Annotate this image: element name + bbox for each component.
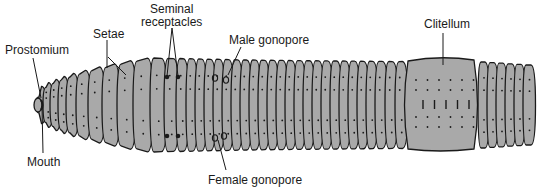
label-setae: Setae: [93, 27, 125, 41]
seminal-receptacle: [165, 134, 170, 139]
tail-segment: [523, 65, 536, 145]
earthworm-diagram: Prostomium Setae Seminal receptacles Mal…: [0, 0, 543, 196]
label-prostomium: Prostomium: [5, 43, 69, 57]
label-clitellum: Clitellum: [424, 17, 470, 31]
label-male-gonopore: Male gonopore: [229, 33, 309, 47]
prostomium-leader: [33, 58, 41, 98]
label-seminal-2: receptacles: [141, 15, 202, 29]
seminal-receptacle: [176, 134, 181, 139]
prostomium: [34, 98, 42, 112]
label-mouth: Mouth: [27, 155, 60, 169]
label-female-gonopore: Female gonopore: [208, 173, 302, 187]
clitellum: [405, 58, 478, 151]
label-seminal-1: Seminal: [150, 2, 193, 16]
